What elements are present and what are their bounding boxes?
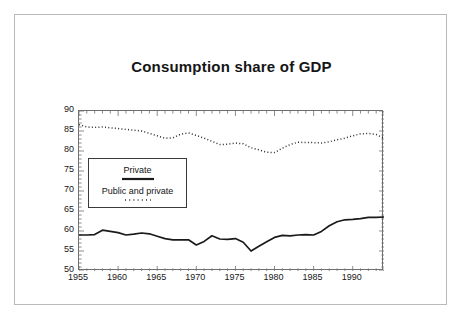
series-line-public-and-private <box>79 125 384 153</box>
y-axis-tick-label: 75 <box>54 165 74 174</box>
y-axis-tick-label: 80 <box>54 145 74 154</box>
x-axis-tick-label: 1970 <box>175 272 215 282</box>
x-axis-tick-label: 1965 <box>136 272 176 282</box>
y-axis-tick-label: 65 <box>54 205 74 214</box>
y-axis-tick-label: 90 <box>54 105 74 114</box>
y-axis-tick-label: 55 <box>54 245 74 254</box>
x-axis-tick-label: 1955 <box>58 272 98 282</box>
y-axis-tick-label: 70 <box>54 185 74 194</box>
chart-title: Consumption share of GDP <box>0 58 463 75</box>
x-axis-tick-label: 1960 <box>97 272 137 282</box>
y-axis-tick-labels: 505560657075808590 <box>52 110 74 270</box>
figure-root: Consumption share of GDP 505560657075808… <box>0 0 463 322</box>
legend-entry-private: Private <box>89 165 186 182</box>
x-axis-tick-label: 1990 <box>332 272 372 282</box>
y-axis-tick-label: 60 <box>54 225 74 234</box>
legend-sample-private-solid <box>89 176 186 182</box>
y-axis-tick-label: 85 <box>54 125 74 134</box>
series-line-private <box>79 217 384 251</box>
legend-sample-public-dotted <box>89 197 186 203</box>
legend-label-private: Private <box>89 165 186 175</box>
x-axis-tick-label: 1980 <box>254 272 294 282</box>
x-axis-tick-label: 1975 <box>214 272 254 282</box>
x-axis-tick-labels: 19551960196519701975198019851990 <box>78 272 383 286</box>
chart-legend: Private Public and private <box>88 158 187 208</box>
x-axis-tick-label: 1985 <box>293 272 333 282</box>
legend-label-public-and-private: Public and private <box>89 186 186 196</box>
legend-entry-public-and-private: Public and private <box>89 186 186 203</box>
